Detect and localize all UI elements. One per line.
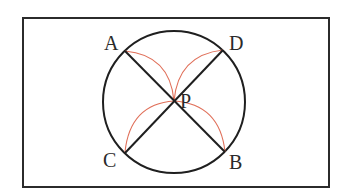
geometry-diagram: A D P C B	[0, 0, 337, 196]
point-label-b: B	[229, 151, 242, 173]
point-label-a: A	[104, 32, 119, 54]
point-label-p: P	[180, 90, 191, 112]
point-label-c: C	[103, 149, 116, 171]
point-label-d: D	[229, 32, 243, 54]
